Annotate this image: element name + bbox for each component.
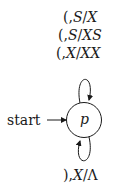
top-self-loop	[79, 79, 90, 103]
top-label-2: (,S/XS	[58, 27, 102, 43]
start-label: start	[7, 112, 40, 128]
top-label-3: (,X/XX	[56, 45, 101, 61]
bottom-label: ),X/Λ	[63, 167, 98, 183]
state-p-label: p	[80, 111, 89, 127]
bottom-self-loop	[78, 137, 90, 161]
top-label-1: (,S/X	[63, 9, 97, 25]
